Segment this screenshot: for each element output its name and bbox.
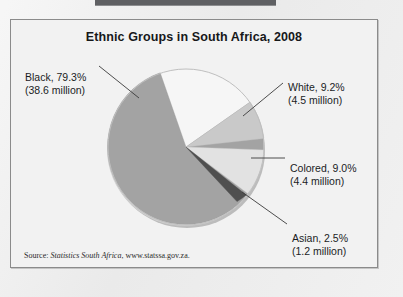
callout-colored-line1: Colored, 9.0% [290, 162, 357, 174]
chart-figure-panel: Ethnic Groups in South Africa, 2008 [10, 19, 378, 268]
cropped-top-bar [95, 0, 276, 6]
callout-asian: Asian, 2.5% (1.2 million) [292, 232, 348, 258]
callout-asian-line1: Asian, 2.5% [292, 232, 348, 244]
callout-colored-line2: (4.4 million) [290, 175, 357, 188]
source-prefix: Source: [24, 251, 48, 260]
callout-black-line2: (38.6 million) [25, 84, 86, 97]
callout-black: Black, 79.3% (38.6 million) [25, 71, 86, 97]
callout-white-line2: (4.5 million) [288, 94, 345, 107]
leader-line-white [243, 83, 283, 116]
leader-line-black [99, 66, 139, 98]
callout-asian-line2: (1.2 million) [292, 245, 348, 258]
callout-white: White, 9.2% (4.5 million) [288, 81, 345, 107]
source-url: , www.statssa.gov.za. [121, 251, 189, 260]
source-publication: Statistics South Africa [50, 251, 121, 260]
pie-chart-svg [11, 20, 377, 267]
leader-line-asian [242, 192, 287, 224]
callout-colored: Colored, 9.0% (4.4 million) [290, 162, 357, 188]
pie-chart-plot-area: Black, 79.3% (38.6 million) White, 9.2% … [11, 20, 377, 267]
source-note: Source: Statistics South Africa, www.sta… [24, 251, 190, 260]
callout-white-line1: White, 9.2% [288, 81, 345, 93]
callout-black-line1: Black, 79.3% [25, 71, 86, 83]
